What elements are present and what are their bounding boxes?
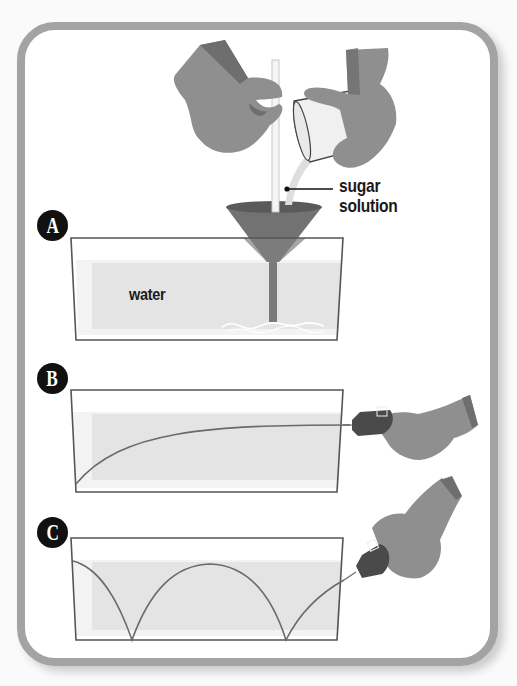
step-badge-c: C — [37, 517, 68, 548]
experiment-illustration — [0, 0, 517, 686]
callout-line-1: sugar — [339, 176, 398, 196]
sugar-solution-label: sugar solution — [339, 176, 398, 216]
glove-with-laser-b — [352, 395, 478, 460]
water-label: water — [129, 285, 165, 305]
callout-dot — [284, 186, 289, 191]
callout-line-2: solution — [339, 196, 398, 216]
left-glove — [174, 40, 283, 153]
step-badge-a: A — [37, 210, 68, 241]
panel-b — [71, 390, 478, 492]
panel-c — [71, 476, 462, 640]
step-badge-b: B — [37, 363, 68, 394]
glove-with-laser-c — [356, 476, 462, 578]
water-body-c — [92, 562, 341, 630]
funnel-cone-shade — [243, 238, 306, 262]
funnel-stem — [269, 262, 277, 322]
